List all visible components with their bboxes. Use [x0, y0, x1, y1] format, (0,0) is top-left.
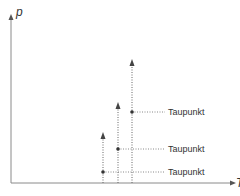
vapor-arrow-3	[130, 59, 166, 183]
dew-point-label-3: Taupunkt	[168, 107, 205, 117]
x-axis-label: T	[236, 177, 240, 189]
dew-point-label-1: Taupunkt	[168, 167, 205, 177]
y-axis-arrowhead-icon	[9, 14, 14, 20]
vapor-arrow-2	[116, 102, 166, 183]
arrowhead-icon	[130, 59, 135, 66]
y-axis-label: p	[16, 6, 23, 18]
vapor-arrow-1	[101, 132, 166, 183]
dew-point-marker-icon	[116, 147, 120, 151]
dew-point-marker-icon	[101, 170, 105, 174]
arrowhead-icon	[101, 132, 106, 139]
dew-point-label-2: Taupunkt	[168, 144, 205, 154]
arrowhead-icon	[116, 102, 121, 109]
dew-point-marker-icon	[130, 110, 134, 114]
